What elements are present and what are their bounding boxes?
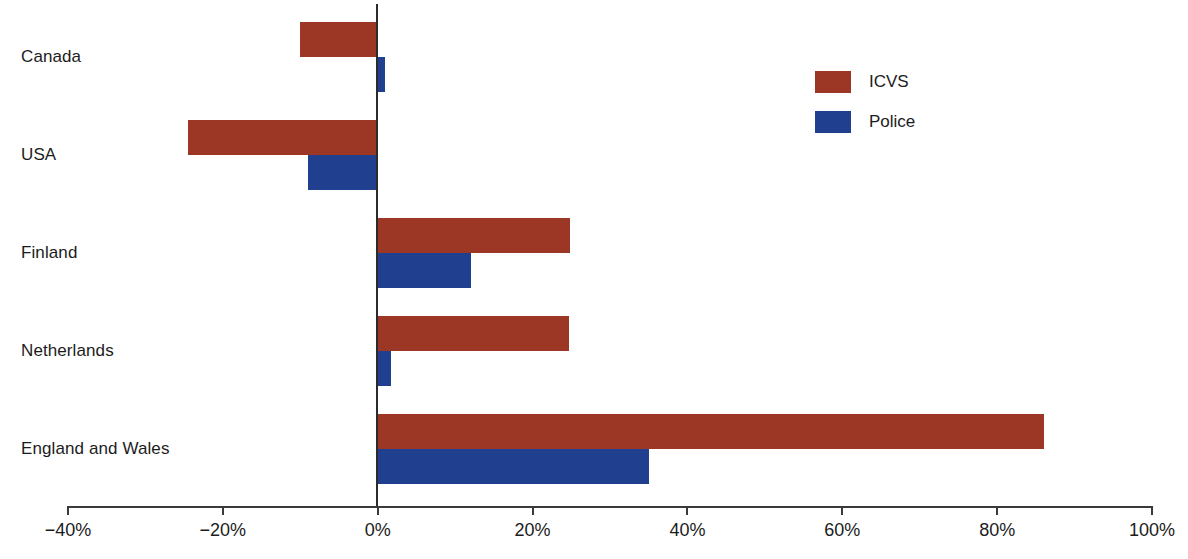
legend-item: Police (815, 102, 915, 142)
bar-police-netherlands (378, 351, 391, 386)
bar-icvs-netherlands (378, 316, 569, 351)
x-axis-tick (532, 506, 534, 515)
x-axis-tick (222, 506, 224, 515)
x-axis-line (68, 506, 1152, 508)
legend: ICVSPolice (815, 62, 915, 142)
x-axis-tick-label: 60% (824, 519, 860, 541)
plot-area (0, 0, 1188, 505)
x-axis-tick-label: 40% (669, 519, 705, 541)
bar-police-usa (308, 155, 378, 190)
bar-icvs-canada (300, 22, 377, 57)
legend-item: ICVS (815, 62, 915, 102)
bar-icvs-england-and-wales (378, 414, 1044, 449)
x-axis-tick-label: 0% (365, 519, 391, 541)
bar-chart: CanadaUSAFinlandNetherlandsEngland and W… (0, 0, 1188, 559)
bar-icvs-usa (188, 120, 378, 155)
bar-police-england-and-wales (378, 449, 649, 484)
x-axis-tick-label: 20% (515, 519, 551, 541)
x-axis-tick-label: 80% (979, 519, 1015, 541)
x-axis-tick (67, 506, 69, 515)
bar-icvs-finland (378, 218, 570, 253)
zero-axis-line (376, 4, 378, 507)
x-axis-tick (686, 506, 688, 515)
legend-label: ICVS (869, 72, 909, 92)
bar-police-canada (378, 57, 386, 92)
x-axis-tick (996, 506, 998, 515)
x-axis-tick (841, 506, 843, 515)
x-axis-tick-label: −20% (200, 519, 247, 541)
x-axis-tick (377, 506, 379, 515)
x-axis-tick-label: −40% (45, 519, 92, 541)
legend-swatch-icon (815, 111, 851, 133)
legend-swatch-icon (815, 71, 851, 93)
x-axis-tick-label: 100% (1129, 519, 1175, 541)
x-axis-tick (1151, 506, 1153, 515)
legend-label: Police (869, 112, 915, 132)
bar-police-finland (378, 253, 471, 288)
